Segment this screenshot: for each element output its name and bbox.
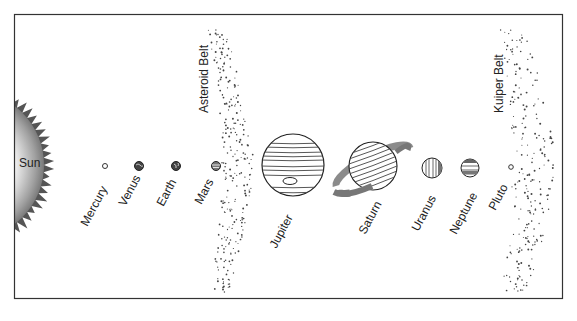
- diagram-canvas: [0, 0, 577, 321]
- mars-icon: [212, 162, 221, 171]
- jupiter-icon: [260, 134, 326, 196]
- uranus-icon: [422, 158, 443, 178]
- sun-label: Sun: [19, 157, 40, 169]
- pluto-icon: [509, 165, 514, 170]
- kuiper-belt-icon: [500, 29, 554, 291]
- asteroid-belt-icon: [208, 29, 254, 292]
- mercury-icon: [103, 164, 108, 169]
- venus-icon: [135, 162, 144, 171]
- earth-icon: [172, 162, 181, 171]
- kuiper-belt-label: Kuiper Belt: [493, 54, 505, 113]
- neptune-icon: [460, 158, 480, 177]
- solar-system-diagram: Sun Mercury Venus Earth Mars Jupiter Sat…: [0, 0, 577, 321]
- asteroid-belt-label: Asteroid Belt: [198, 45, 210, 113]
- saturn-icon: [334, 136, 410, 194]
